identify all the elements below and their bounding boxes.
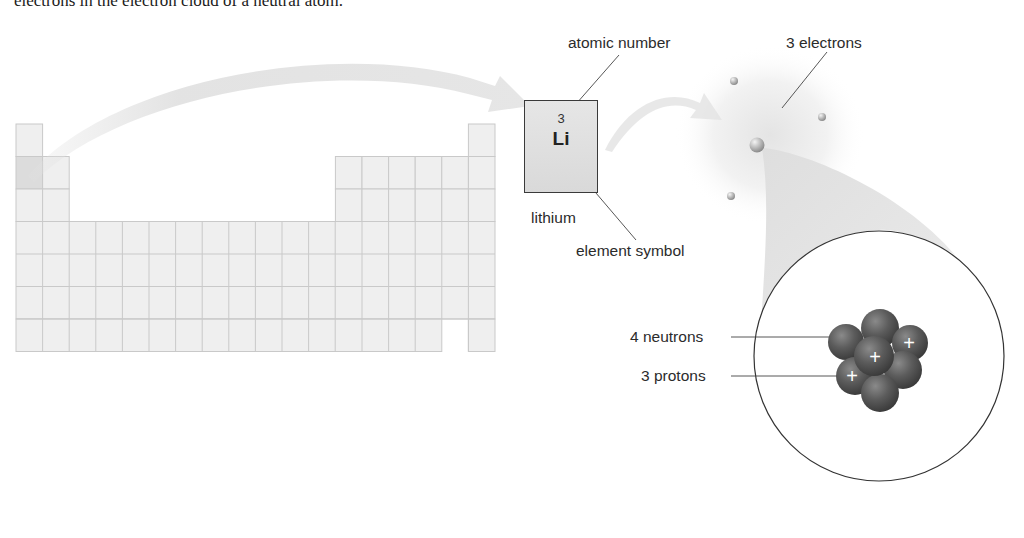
label-electrons: 3 electrons xyxy=(786,34,862,52)
electron xyxy=(818,113,826,121)
label-element-name: lithium xyxy=(531,209,576,227)
label-element-symbol: element symbol xyxy=(576,242,685,260)
label-atomic-number: atomic number xyxy=(568,34,671,52)
label-neutrons: 4 neutrons xyxy=(630,328,703,346)
element-symbol-value: Li xyxy=(525,128,597,150)
nucleus-small xyxy=(750,138,765,153)
diagram-canvas: + + + xyxy=(0,0,1024,538)
electron xyxy=(727,192,735,200)
neutron xyxy=(861,374,899,412)
element-tile-lithium: 3 Li xyxy=(524,100,598,193)
plus-icon: + xyxy=(869,346,881,368)
plus-icon: + xyxy=(846,365,858,387)
plus-icon: + xyxy=(903,332,915,354)
atomic-number-value: 3 xyxy=(525,111,597,126)
electron xyxy=(730,77,738,85)
label-protons: 3 protons xyxy=(641,367,706,385)
